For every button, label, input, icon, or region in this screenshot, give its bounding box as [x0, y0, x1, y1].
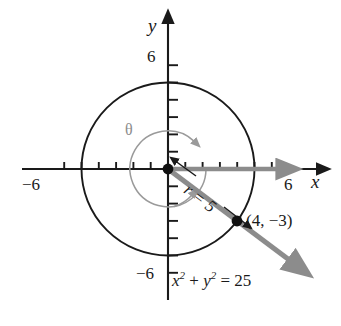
figure-canvas [0, 0, 341, 326]
x-tick-label-positive: 6 [284, 176, 293, 193]
y-tick-label-negative: −6 [136, 265, 154, 282]
equation-equals: = [220, 271, 230, 290]
geometry-figure: y x 6 −6 6 −6 θ r = 5 (4, −3) x2 + y2 = … [0, 0, 341, 326]
equation-value: 25 [234, 271, 251, 290]
theta-label: θ [125, 122, 133, 138]
x-axis-label: x [311, 172, 319, 191]
x-tick-label-negative: −6 [22, 176, 40, 193]
origin-point [163, 164, 174, 175]
point-label: (4, −3) [246, 212, 292, 229]
y-axis-label: y [148, 16, 156, 35]
plotted-point [232, 216, 243, 227]
equation-x-exponent: 2 [180, 269, 186, 281]
equation-y-exponent: 2 [211, 269, 217, 281]
equation-plus: + [189, 271, 199, 290]
equation-y-base: y [203, 271, 211, 290]
equation-x-base: x [172, 271, 180, 290]
circle-equation: x2 + y2 = 25 [172, 270, 251, 289]
y-tick-label-positive: 6 [147, 48, 156, 65]
